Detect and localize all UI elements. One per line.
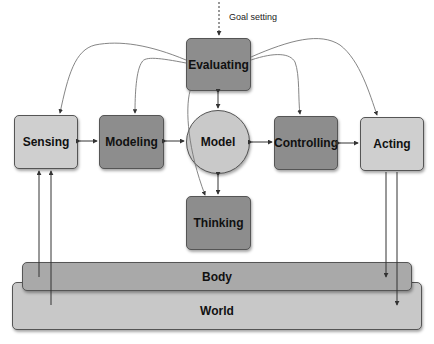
evaluating-label: Evaluating xyxy=(188,58,249,72)
thinking-label: Thinking xyxy=(194,216,244,230)
evaluating-to-acting-arrow xyxy=(251,39,377,115)
evaluating-to-sensing-arrow xyxy=(60,43,186,113)
modeling-node: Modeling xyxy=(99,115,164,169)
evaluating-node: Evaluating xyxy=(186,38,251,91)
evaluating-to-controlling-arrow xyxy=(251,55,300,114)
diagram-canvas: World Body Goal setting Evaluating Sensi… xyxy=(0,0,434,344)
sensing-label: Sensing xyxy=(23,135,70,149)
modeling-label: Modeling xyxy=(105,135,158,149)
thinking-node: Thinking xyxy=(186,196,251,250)
body-layer: Body xyxy=(22,262,412,291)
model-node: Model xyxy=(186,110,250,174)
controlling-label: Controlling xyxy=(274,136,338,150)
body-label: Body xyxy=(202,270,232,284)
model-label: Model xyxy=(201,135,236,149)
acting-label: Acting xyxy=(373,137,410,151)
sensing-node: Sensing xyxy=(14,115,78,169)
evaluating-to-modeling-arrow xyxy=(135,58,186,113)
controlling-node: Controlling xyxy=(274,116,338,170)
acting-node: Acting xyxy=(360,117,424,171)
world-label: World xyxy=(200,304,234,318)
goal-setting-label: Goal setting xyxy=(229,12,277,22)
